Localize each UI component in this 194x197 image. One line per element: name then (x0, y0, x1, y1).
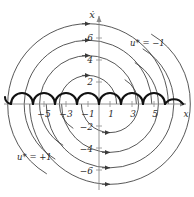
flow-arrows-upper (82, 24, 90, 76)
annotation-u-star-plus-one: u* = +1 (17, 152, 52, 162)
y-tick-6: 6 (87, 33, 93, 43)
y-axis-label: ẋ (89, 9, 95, 20)
x-tick-1: 1 (108, 109, 114, 119)
x-tick--1: −1 (81, 109, 94, 119)
x-tick--3: −3 (59, 109, 73, 119)
phase-plane-figure: −5 −3 −1 1 3 5 6 4 2 −2 −4 −6 x ẋ u* = −… (0, 0, 194, 197)
y-tick-4: 4 (86, 55, 93, 65)
phase-plane-plot: −5 −3 −1 1 3 5 6 4 2 −2 −4 −6 x ẋ (0, 0, 194, 197)
x-tick-5: 5 (152, 109, 158, 119)
x-axis-label: x (183, 109, 188, 119)
bold-switching-trajectory (5, 93, 183, 104)
y-tick--2: −2 (80, 122, 94, 132)
flow-arrows-lower (102, 133, 110, 185)
x-tick-3: 3 (130, 109, 136, 119)
x-tick--5: −5 (37, 109, 51, 119)
y-tick-2: 2 (86, 77, 93, 87)
y-tick--6: −6 (80, 166, 94, 176)
y-tick--4: −4 (80, 144, 94, 154)
x-tick-labels: −5 −3 −1 1 3 5 (37, 109, 158, 119)
annotation-u-star-minus-one: u* = −1 (130, 38, 165, 48)
